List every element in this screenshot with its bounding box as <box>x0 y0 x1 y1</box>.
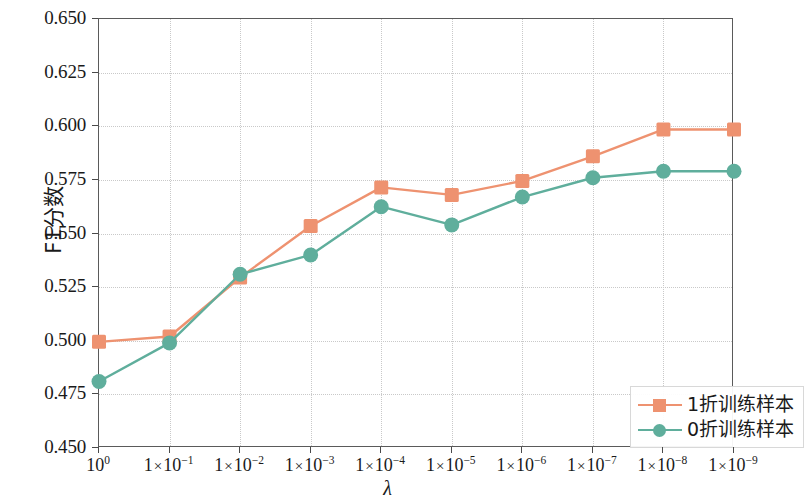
data-point[interactable] <box>515 174 529 188</box>
data-point[interactable] <box>444 217 459 232</box>
x-tick-mark <box>662 447 663 453</box>
x-tick-mark <box>451 447 452 453</box>
x-tick-mark <box>169 447 170 453</box>
x-tick-label: 1×10−6 <box>496 455 546 476</box>
series-layer <box>99 19 734 448</box>
legend-item-0[interactable]: 1折训练样本 <box>638 392 794 417</box>
x-tick-mark <box>98 447 99 453</box>
x-tick-label: 100 <box>86 455 110 475</box>
x-tick-mark <box>733 447 734 453</box>
x-tick-mark <box>592 447 593 453</box>
data-point[interactable] <box>374 199 389 214</box>
legend-marker-circle-icon <box>638 420 682 440</box>
x-tick-label: 1×10−3 <box>285 455 335 476</box>
y-tick-label: 0.475 <box>44 383 86 402</box>
x-tick-mark <box>380 447 381 453</box>
data-point[interactable] <box>656 122 670 136</box>
y-tick-label: 0.600 <box>44 115 86 134</box>
y-tick-label: 0.450 <box>44 437 86 456</box>
legend-item-1[interactable]: 0折训练样本 <box>638 417 794 442</box>
x-tick-label: 1×10−1 <box>144 455 194 476</box>
y-tick-label: 0.500 <box>44 330 86 349</box>
data-point[interactable] <box>162 335 177 350</box>
y-tick-label: 0.625 <box>44 62 86 81</box>
x-tick-mark <box>239 447 240 453</box>
data-point[interactable] <box>727 164 742 179</box>
x-tick-mark <box>310 447 311 453</box>
data-point[interactable] <box>445 188 459 202</box>
legend-label-1: 0折训练样本 <box>687 419 794 440</box>
y-tick-label: 0.650 <box>44 8 86 27</box>
legend-marker-square-icon <box>638 395 682 415</box>
chart-legend[interactable]: 1折训练样本 0折训练样本 <box>630 386 804 448</box>
data-point[interactable] <box>374 180 388 194</box>
x-tick-label: 1×10−9 <box>708 455 758 476</box>
legend-label-0: 1折训练样本 <box>687 394 794 415</box>
data-point[interactable] <box>92 335 106 349</box>
x-axis-title: λ <box>0 477 775 499</box>
data-point[interactable] <box>233 267 248 282</box>
x-tick-label: 1×10−2 <box>214 455 264 476</box>
data-point[interactable] <box>304 219 318 233</box>
data-point[interactable] <box>727 122 741 136</box>
data-point[interactable] <box>656 164 671 179</box>
series-line-1 <box>99 171 734 381</box>
x-tick-label: 1×10−4 <box>355 455 405 476</box>
x-tick-label: 1×10−7 <box>567 455 617 476</box>
data-point[interactable] <box>303 247 318 262</box>
x-tick-label: 1×10−5 <box>426 455 476 476</box>
x-tick-mark <box>521 447 522 453</box>
x-tick-label: 1×10−8 <box>638 455 688 476</box>
plot-area: 1折训练样本 0折训练样本 <box>98 18 733 447</box>
data-point[interactable] <box>586 149 600 163</box>
series-line-0 <box>99 129 734 341</box>
data-point[interactable] <box>515 190 530 205</box>
data-point[interactable] <box>92 374 107 389</box>
y-axis-title: F1分数 <box>37 160 67 280</box>
data-point[interactable] <box>585 170 600 185</box>
